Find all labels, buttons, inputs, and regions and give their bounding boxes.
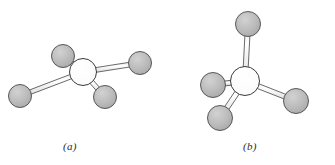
ligand-atom-a-lower-mid (94, 86, 117, 109)
ligand-atom-a-right (129, 52, 152, 75)
panel-a-group (9, 45, 152, 109)
molecule-canvas (0, 0, 335, 165)
ligand-atom-a-lower-left (9, 85, 32, 108)
ligand-atom-b-left (201, 73, 226, 98)
ligand-atom-b-lower-left (208, 106, 233, 131)
ligand-atom-b-right (284, 89, 309, 114)
ligand-atom-b-top (236, 12, 261, 37)
panel-b-group (201, 12, 309, 131)
molecule-figure: (a) (b) (0, 0, 335, 165)
panel-label-b: (b) (243, 140, 257, 152)
central-atom-a (70, 59, 97, 86)
panel-label-a: (a) (63, 140, 77, 152)
central-atom-b (231, 67, 260, 96)
ligand-atom-a-upper-left (52, 45, 75, 68)
